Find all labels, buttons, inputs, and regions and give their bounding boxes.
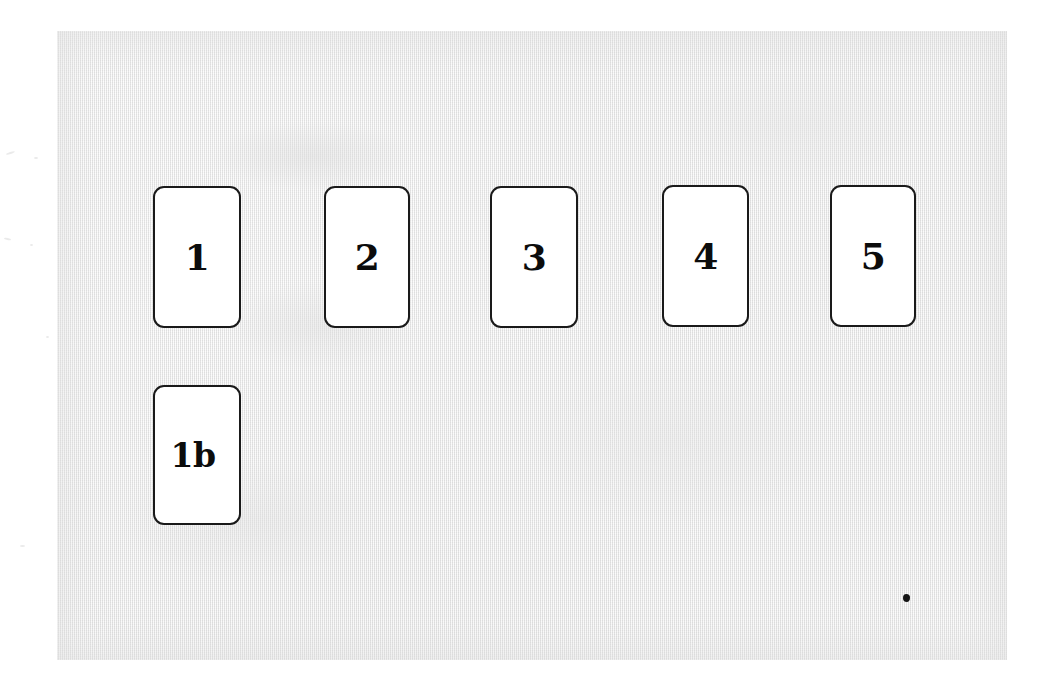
margin-speck — [20, 545, 25, 547]
margin-speck — [34, 157, 38, 159]
card-4-label: 4 — [693, 238, 718, 274]
card-3[interactable]: 3 — [490, 186, 578, 328]
card-1-label: 1 — [185, 239, 210, 275]
margin-speck — [6, 151, 15, 156]
margin-speck — [4, 237, 11, 240]
card-1b[interactable]: 1b — [153, 385, 241, 525]
page-smudge — [527, 361, 827, 521]
scan-canvas: 1 2 3 4 5 1b — [0, 0, 1063, 699]
card-2[interactable]: 2 — [324, 186, 410, 328]
card-3-label: 3 — [522, 239, 547, 275]
card-1b-label: 1b — [170, 439, 215, 472]
page-smudge — [207, 121, 417, 191]
card-4[interactable]: 4 — [662, 185, 749, 327]
margin-speck — [46, 336, 49, 338]
card-5[interactable]: 5 — [830, 185, 916, 327]
card-5-label: 5 — [861, 238, 886, 274]
scanned-page-sheet: 1 2 3 4 5 1b — [57, 31, 1007, 660]
card-2-label: 2 — [355, 239, 380, 275]
ink-speck — [903, 594, 910, 602]
page-smudge — [677, 71, 917, 181]
card-1[interactable]: 1 — [153, 186, 241, 328]
margin-speck — [30, 244, 33, 246]
